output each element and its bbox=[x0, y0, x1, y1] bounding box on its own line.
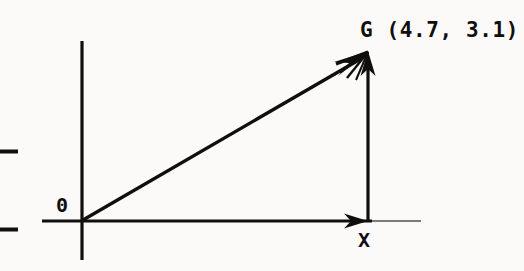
point-g-label: G (4.7, 3.1) bbox=[360, 18, 519, 42]
vector-og-line bbox=[83, 57, 364, 220]
origin-label: 0 bbox=[56, 193, 68, 217]
x-axis-label: X bbox=[358, 228, 370, 252]
figure-canvas: G (4.7, 3.1) 0 X bbox=[0, 0, 524, 271]
